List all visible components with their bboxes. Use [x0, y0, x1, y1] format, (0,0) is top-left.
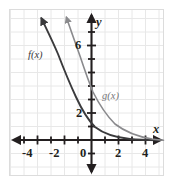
y-tick-label-2: 2: [76, 107, 82, 120]
x-tick-label-4: 4: [142, 147, 148, 160]
x-tick-label-zero: 0: [80, 147, 86, 160]
curve-label-f: f(x): [28, 50, 43, 61]
y-axis-label: y: [96, 16, 102, 29]
x-tick-label-minus-4: -4: [22, 147, 32, 160]
y-tick-label-6: 6: [75, 39, 81, 52]
curve-label-g: g(x): [102, 91, 119, 102]
exponential-decay-graph-figure: -4 -2 0 2 4 2 6 x y f(x) g(x): [0, 0, 172, 185]
x-tick-label-minus-2: -2: [49, 147, 59, 160]
x-tick-label-2: 2: [115, 147, 121, 160]
x-axis-label: x: [153, 123, 159, 136]
